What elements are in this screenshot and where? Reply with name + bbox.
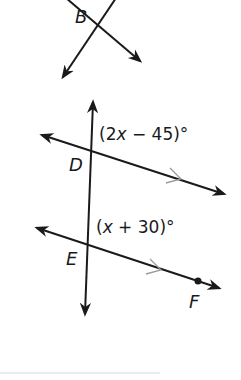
label-point-f: F <box>189 293 199 311</box>
label-point-e: E <box>66 250 77 268</box>
angle-lower-rest: + 30)° <box>113 217 175 237</box>
transversal-line <box>85 102 93 314</box>
angle-lower-open: ( <box>96 217 103 237</box>
label-point-d: D <box>69 156 83 174</box>
bottom-divider <box>0 372 160 374</box>
line-through-b-2 <box>63 0 116 77</box>
point-f-dot <box>195 278 202 285</box>
parallel-line-ef <box>37 228 219 288</box>
geometry-diagram: B D E F (2x − 45)° (x + 30)° <box>0 0 241 380</box>
angle-upper-var: x <box>116 124 126 144</box>
angle-label-upper: (2x − 45)° <box>99 126 188 143</box>
label-point-b: B <box>75 8 87 26</box>
angle-upper-rest: − 45)° <box>127 124 189 144</box>
angle-upper-open: (2 <box>99 124 116 144</box>
diagram-lines <box>0 0 241 380</box>
angle-label-lower: (x + 30)° <box>96 219 175 236</box>
angle-lower-var: x <box>103 217 113 237</box>
